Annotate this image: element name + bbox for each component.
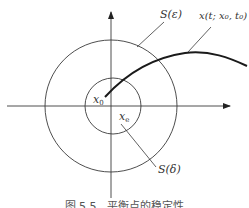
- label-trajectory: x(t; x₀, t₀): [199, 11, 247, 21]
- leader-s-delta: [121, 124, 156, 167]
- label-x0: x0: [93, 94, 104, 107]
- stability-diagram: S(ε) x(t; x₀, t₀) x0 xe S(δ) 图 5.5 平衡点的稳…: [0, 0, 249, 208]
- trajectory-curve: [105, 52, 247, 97]
- leader-s-epsilon: [137, 22, 164, 47]
- label-s-epsilon: S(ε): [160, 9, 182, 20]
- label-s-delta: S(δ): [158, 164, 181, 175]
- diagram-canvas: [0, 0, 249, 208]
- figure-caption: 图 5.5 平衡点的稳定性: [0, 201, 249, 208]
- leader-trajectory: [188, 27, 211, 52]
- label-xe: xe: [119, 111, 129, 124]
